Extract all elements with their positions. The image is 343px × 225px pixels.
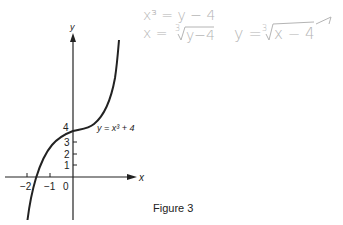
y-axis-arrow-icon xyxy=(70,33,76,42)
note-line-1: x³ = y − 4 xyxy=(143,7,215,23)
handwritten-notes: x³ = y − 4 x = 3 y−4 y = 3 x − 4 xyxy=(143,7,331,43)
inverse-prefix: y = xyxy=(234,24,262,43)
x-axis-arrow-icon xyxy=(127,174,137,180)
y-axis-label: y xyxy=(69,22,75,32)
y-tick-label: 1 xyxy=(64,160,70,171)
x-tick-label: 0 xyxy=(63,181,69,192)
x-tick-label: −2 xyxy=(20,181,32,192)
y-tick-label: 3 xyxy=(64,137,70,148)
cubic-graph-figure: x³ = y − 4 x = 3 y−4 y = 3 x − 4 y x −2 … xyxy=(0,0,343,225)
x-axis-label: x xyxy=(138,172,145,183)
note-line-2-prefix: x = xyxy=(143,25,167,41)
axes: y x −2 −1 0 1 2 3 4 xyxy=(5,22,145,220)
x-tick-label: −1 xyxy=(44,181,56,192)
y-tick-label: 2 xyxy=(64,149,70,160)
pencil-arrow-icon xyxy=(316,17,331,24)
inverse-radicand: x − 4 xyxy=(274,25,315,43)
y-tick-label: 4 xyxy=(63,122,69,133)
function-label: y = x³ + 4 xyxy=(96,123,135,133)
note-line-2-index: 3 xyxy=(175,24,180,33)
inverse-index: 3 xyxy=(262,24,267,33)
note-line-2-radicand: y−4 xyxy=(186,27,215,43)
figure-caption: Figure 3 xyxy=(153,202,193,214)
